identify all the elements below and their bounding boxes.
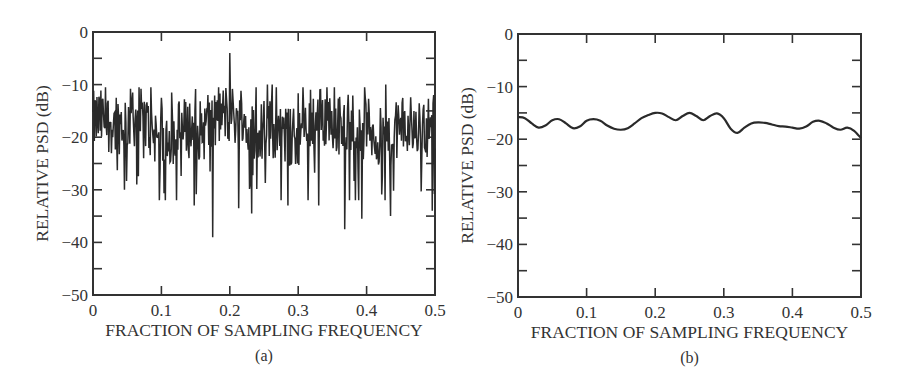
psd-chart-b: 0−10−20−30−40−5000.10.20.30.40.5FRACTION… — [450, 0, 901, 392]
y-tick-label: −40 — [61, 233, 88, 252]
chart-panel-a: 0−10−20−30−40−5000.10.20.30.40.5FRACTION… — [0, 0, 450, 392]
y-tick-label: −30 — [61, 181, 88, 200]
x-tick-label: 0.3 — [288, 301, 309, 320]
y-tick-label: −50 — [61, 286, 88, 305]
y-tick-label: −10 — [61, 76, 88, 95]
figure-caption: (b) — [680, 349, 699, 367]
figure-caption: (a) — [255, 347, 273, 365]
x-axis-title: FRACTION OF SAMPLING FREQUENCY — [105, 320, 423, 340]
x-tick-label: 0.5 — [850, 303, 871, 322]
psd-trace-b — [518, 113, 861, 138]
chart-panel-b: 0−10−20−30−40−5000.10.20.30.40.5FRACTION… — [450, 0, 900, 392]
y-tick-label: −50 — [486, 288, 513, 307]
y-axis-title: RELATIVE PSD (dB) — [32, 85, 52, 242]
y-tick-label: −10 — [486, 78, 513, 97]
y-tick-label: 0 — [80, 23, 89, 42]
y-tick-label: −20 — [61, 128, 88, 147]
x-tick-label: 0.5 — [424, 301, 445, 320]
x-axis-title: FRACTION OF SAMPLING FREQUENCY — [531, 322, 849, 342]
x-tick-label: 0.1 — [151, 301, 172, 320]
psd-trace-a — [93, 53, 435, 237]
x-tick-label: 0.2 — [219, 301, 240, 320]
y-tick-label: −40 — [486, 235, 513, 254]
x-tick-label: 0 — [89, 301, 98, 320]
x-tick-label: 0.2 — [645, 303, 666, 322]
x-tick-label: 0.3 — [713, 303, 734, 322]
y-tick-label: −30 — [486, 183, 513, 202]
x-tick-label: 0.1 — [576, 303, 597, 322]
plot-frame — [518, 34, 861, 297]
psd-chart-a: 0−10−20−30−40−5000.10.20.30.40.5FRACTION… — [0, 0, 450, 392]
y-axis-title: RELATIVE PSD (dB) — [457, 87, 477, 244]
x-tick-label: 0.4 — [782, 303, 804, 322]
y-tick-label: 0 — [505, 25, 514, 44]
x-tick-label: 0 — [514, 303, 523, 322]
x-tick-label: 0.4 — [356, 301, 378, 320]
y-tick-label: −20 — [486, 130, 513, 149]
plot-frame — [93, 32, 435, 295]
